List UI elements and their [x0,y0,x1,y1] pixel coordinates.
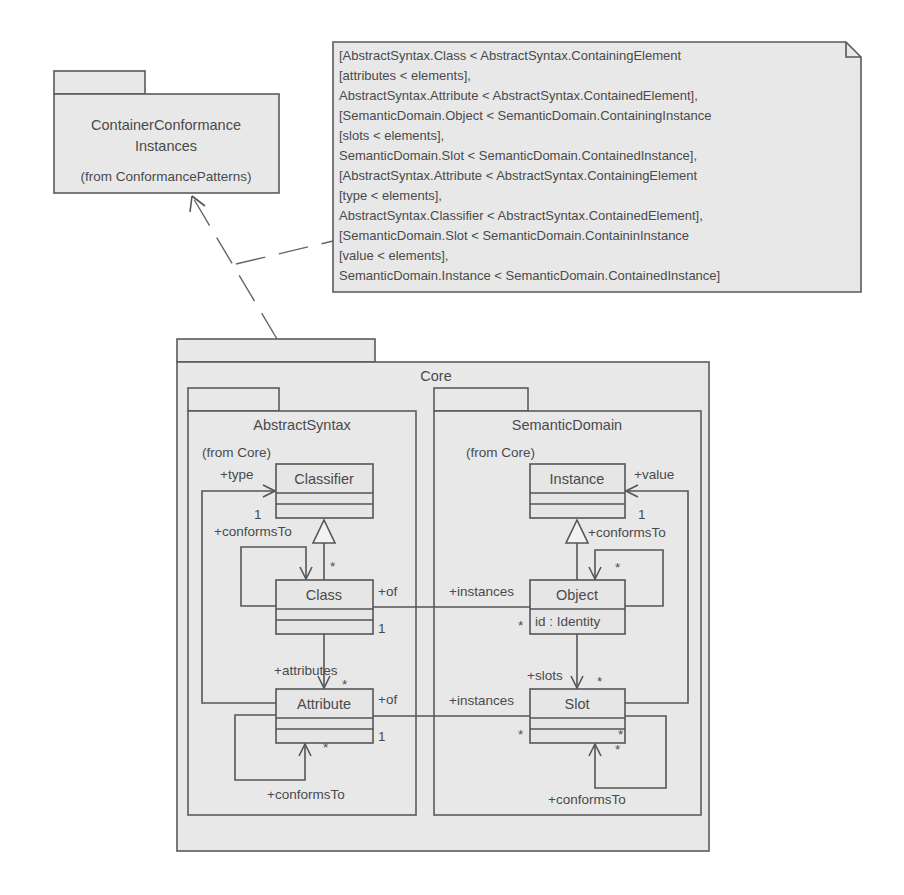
note-line: SemanticDomain.Slot < SemanticDomain.Con… [339,148,697,163]
note-line: AbstractSyntax.Attribute < AbstractSynta… [339,88,698,103]
role-label-type: +type [220,467,253,482]
role-label-class-of: +of [378,584,397,599]
note-anchor-line [236,241,333,264]
package-tab [54,71,145,94]
uml-diagram: ContainerConformance Instances (from Con… [0,0,904,895]
note-line: [attributes < elements], [339,68,471,83]
role-label-slot-instances: +instances [449,693,514,708]
class-instance[interactable]: Instance [530,464,625,518]
note-line: [AbstractSyntax.Attribute < AbstractSynt… [339,168,697,183]
mult-label-class-conforms: * [330,559,336,574]
package-tab [434,388,528,411]
package-container-conformance-instances[interactable]: ContainerConformance Instances (from Con… [54,71,279,193]
mult-label-value: 1 [638,507,646,522]
mult-label-class-of: 1 [378,621,386,636]
note-line: [SemanticDomain.Object < SemanticDomain.… [339,108,712,123]
class-attribute-id: id : Identity [535,614,601,629]
class-name: Object [556,587,598,603]
role-label-value: +value [634,467,674,482]
note-line: [value < elements], [339,248,448,263]
role-label-object-instances: +instances [449,584,514,599]
role-label-attribute-of: +of [378,692,397,707]
class-slot[interactable]: Slot [530,689,625,743]
package-name: AbstractSyntax [253,417,351,433]
mult-label-attributes: * [342,677,348,692]
package-name-line1: ContainerConformance [91,117,241,133]
package-from-label: (from Core) [202,445,271,460]
class-class[interactable]: Class [276,580,373,634]
role-label-slots: +slots [527,668,563,683]
note-line: AbstractSyntax.Classifier < AbstractSynt… [339,208,703,223]
note-line: [slots < elements], [339,128,444,143]
mult-label-slots: * [597,674,603,689]
note-line: SemanticDomain.Instance < SemanticDomain… [339,268,720,283]
class-name: Class [306,587,342,603]
note-line: [type < elements], [339,188,442,203]
package-name: SemanticDomain [512,417,622,433]
role-label-attribute-conforms: +conformsTo [267,787,345,802]
class-name: Attribute [297,696,351,712]
package-name-line2: Instances [135,138,197,154]
mult-label-slot-value: * [618,727,624,742]
mult-label-slot-instances: * [518,727,524,742]
class-attribute[interactable]: Attribute [276,689,373,743]
mult-label-slot-conforms: * [615,742,621,757]
note-line: [SemanticDomain.Slot < SemanticDomain.Co… [339,228,689,243]
note-line: [AbstractSyntax.Class < AbstractSyntax.C… [339,48,682,63]
mult-label-object-conforms: * [615,560,621,575]
package-from-label: (from Core) [466,445,535,460]
package-from-label: (from ConformancePatterns) [80,169,251,184]
constraint-note[interactable]: [AbstractSyntax.Class < AbstractSyntax.C… [333,42,861,292]
mult-label-object-instances: * [518,618,524,633]
role-label-object-conforms: +conformsTo [588,525,666,540]
role-label-class-conforms: +conformsTo [214,524,292,539]
class-object[interactable]: Object id : Identity [530,580,625,634]
mult-label-type: 1 [254,507,262,522]
mult-label-attribute-of: 1 [378,729,386,744]
package-tab [177,339,375,362]
mult-label-attribute-conforms: * [323,740,329,755]
class-classifier[interactable]: Classifier [276,464,373,518]
class-name: Slot [565,696,590,712]
role-label-attributes: +attributes [274,663,338,678]
package-tab [188,388,279,411]
class-name: Classifier [294,471,354,487]
package-name: Core [420,368,451,384]
class-name: Instance [550,471,605,487]
dependency-line [192,196,277,339]
role-label-slot-conforms: +conformsTo [548,792,626,807]
